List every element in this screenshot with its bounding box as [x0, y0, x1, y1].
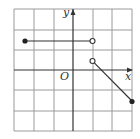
function-graph: y x O [0, 0, 140, 139]
open-endpoint-circle [90, 59, 95, 64]
origin-label: O [60, 70, 69, 83]
closed-endpoint-dot [129, 99, 134, 104]
y-axis-label: y [62, 6, 70, 19]
x-axis-label: x [125, 70, 132, 83]
closed-endpoint-dot [22, 38, 27, 43]
y-axis-arrow-icon [71, 9, 76, 15]
open-endpoint-circle [90, 39, 95, 44]
piece-1 [22, 38, 95, 43]
